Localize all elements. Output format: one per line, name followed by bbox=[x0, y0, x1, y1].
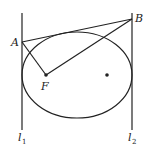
label-A: A bbox=[10, 36, 19, 49]
label-l2-subscript: 2 bbox=[132, 138, 136, 146]
point-center bbox=[105, 73, 109, 77]
point-F bbox=[44, 73, 48, 77]
label-l1-subscript: 1 bbox=[22, 138, 26, 146]
ellipse bbox=[22, 32, 132, 118]
label-B: B bbox=[134, 12, 143, 25]
segment-AB bbox=[22, 19, 132, 42]
label-F: F bbox=[40, 80, 49, 93]
geometry-diagram: A B F l 1 l 2 bbox=[0, 0, 148, 154]
